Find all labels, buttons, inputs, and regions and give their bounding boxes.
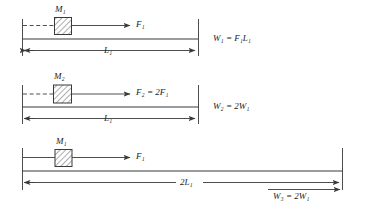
panel-3-work-label: W₃ = 2W₁ <box>273 192 309 201</box>
panel-3-mass-label: M₁ <box>56 137 67 146</box>
panel-2-mass-label: M₂ <box>54 72 65 81</box>
panel-3-force-label: F₁ <box>136 152 145 161</box>
panel-2-dimension-label: L₁ <box>104 114 112 123</box>
panel-2-force-label: F₂ = 2F₁ <box>136 88 168 97</box>
panel-1-force-label: F₁ <box>136 20 145 29</box>
panel-2-work-label: W₂ = 2W₁ <box>213 102 249 111</box>
panel-1-mass-label: M₁ <box>55 5 66 14</box>
panel-3-dimension-label: 2L₁ <box>180 178 193 187</box>
panel-1-dimension-label: L₁ <box>104 46 112 55</box>
figure-canvas: M₁ F₁ L₁ W₁ = F₁L₁ M₂ F₂ = 2F₁ L₁ W₂ = 2… <box>0 0 371 208</box>
panel-1-work-label: W₁ = F₁L₁ <box>213 34 251 43</box>
